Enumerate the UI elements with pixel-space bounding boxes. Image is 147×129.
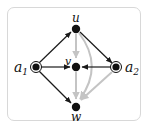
label-a2: a2	[125, 59, 139, 77]
edge-a2-w	[81, 72, 112, 100]
edge-a1-w	[39, 71, 71, 103]
label-a1-main: a	[14, 59, 22, 75]
node-v	[72, 63, 80, 71]
graph-canvas: u v w a1 a2	[0, 0, 147, 129]
node-a1	[31, 62, 42, 73]
label-u: u	[72, 11, 80, 25]
label-a2-main: a	[125, 59, 133, 75]
node-a2	[111, 62, 122, 73]
label-v: v	[65, 55, 72, 68]
label-a1-sub: 1	[22, 67, 28, 77]
label-w: w	[71, 110, 82, 124]
label-a1: a1	[14, 59, 28, 77]
edge-u-w-curved	[79, 33, 92, 99]
edge-u-a2	[80, 32, 112, 63]
node-u	[72, 25, 80, 33]
label-a2-sub: 2	[132, 67, 139, 77]
